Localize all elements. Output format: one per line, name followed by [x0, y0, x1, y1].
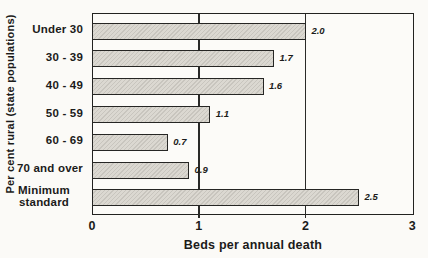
bar-value-label: 1.1	[216, 105, 229, 123]
x-tick-label: 3	[400, 219, 424, 233]
bar	[92, 23, 306, 40]
category-label: 30 - 39	[0, 43, 88, 71]
bar-value-label: 1.7	[280, 49, 293, 67]
bar	[92, 106, 211, 123]
category-label: 70 and over	[0, 155, 88, 183]
bar-value-label: 0.9	[195, 161, 208, 179]
x-axis-tick-mark	[305, 214, 307, 218]
bar	[92, 189, 360, 206]
bar	[92, 50, 275, 67]
x-axis-tick-mark	[198, 214, 200, 218]
category-label: 40 - 49	[0, 71, 88, 99]
category-label: 60 - 69	[0, 127, 88, 155]
x-axis-title: Beds per annual death	[92, 238, 414, 252]
category-label-text: 30 - 39	[46, 51, 83, 64]
bar-value-label: 2.5	[365, 188, 378, 206]
category-label-text: Minimum standard	[10, 184, 78, 209]
category-label-text: 70 and over	[17, 162, 83, 175]
category-label-text: Under 30	[32, 23, 83, 36]
category-label-text: 40 - 49	[46, 79, 83, 92]
bar-chart-figure: Per cent rural (state populations) Under…	[0, 0, 428, 258]
category-label-text: 50 - 59	[46, 107, 83, 120]
category-axis-labels: Under 3030 - 3940 - 4950 - 5960 - 6970 a…	[0, 13, 88, 215]
bar	[92, 134, 168, 151]
x-tick-label: 1	[187, 219, 211, 233]
plot-area: 2.01.71.61.10.70.92.5	[92, 13, 414, 215]
bar-value-label: 0.7	[173, 133, 186, 151]
bar-value-label: 1.6	[269, 77, 282, 95]
gridline-x2	[305, 14, 307, 214]
category-label-text: 60 - 69	[46, 134, 83, 147]
bar	[92, 162, 190, 179]
bar-value-label: 2.0	[311, 22, 324, 40]
x-tick-label: 2	[294, 219, 318, 233]
bar	[92, 78, 264, 95]
category-label: Under 30	[0, 16, 88, 44]
category-label: 50 - 59	[0, 99, 88, 127]
category-label: Minimum standard	[0, 182, 88, 210]
x-tick-label: 0	[80, 219, 104, 233]
